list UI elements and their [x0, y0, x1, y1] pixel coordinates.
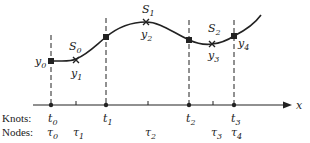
node-label-tau0: τ0 [47, 126, 58, 141]
knot-marker-t1 [103, 34, 109, 40]
value-label-y0: y0 [34, 55, 46, 70]
knot-label-t2: t2 [186, 112, 196, 127]
node-label-tau2: τ2 [145, 126, 156, 141]
value-label-y3: y3 [207, 49, 219, 64]
segment-label-s0: S0 [69, 40, 82, 55]
spline-diagram: x y0 y1 y2 y3 y4 S0 S1 S2 K [0, 0, 310, 143]
x-axis-label: x [296, 99, 303, 112]
node-label-tau3: τ3 [211, 126, 222, 141]
knot-marker-t2 [186, 37, 192, 43]
knots-row-label: Knots: [2, 112, 31, 124]
node-label-tau1: τ1 [73, 126, 84, 141]
spline-curve [51, 15, 261, 61]
x-axis-arrow-icon [283, 102, 292, 109]
knot-label-t1: t1 [103, 112, 113, 127]
segment-label-s1: S1 [142, 3, 155, 18]
node-markers [73, 19, 215, 63]
value-label-y4: y4 [237, 37, 249, 52]
knot-label-t0: t0 [48, 112, 58, 127]
node-label-tau4: τ4 [231, 126, 242, 141]
value-label-y1: y1 [70, 67, 82, 82]
nodes-row-label: Nodes: [2, 126, 33, 138]
segment-label-s2: S2 [208, 22, 221, 37]
knot-marker-t0 [48, 58, 54, 64]
knot-label-t3: t3 [231, 112, 241, 127]
value-label-y2: y2 [140, 28, 152, 43]
knot-marker-t3 [231, 33, 237, 39]
